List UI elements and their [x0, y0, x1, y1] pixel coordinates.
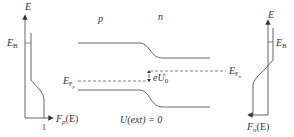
band-diagram: E EB 1 Fp(E) p n EFp EFn eU0 U(ext) = 0 … — [0, 0, 294, 137]
conduction-band — [78, 43, 210, 58]
barrier-arrow-down — [147, 79, 151, 82]
left-x-axis-label: Fp(E) — [55, 113, 78, 126]
left-x-tick-1: 1 — [42, 123, 46, 132]
right-distribution-plot: E EB Fn(E) — [246, 9, 287, 134]
left-distribution-plot: E EB 1 Fp(E) — [6, 1, 78, 132]
valence-band — [78, 90, 210, 107]
n-region-label: n — [158, 11, 163, 22]
left-eb-label: EB — [6, 37, 18, 50]
right-y-axis-label: E — [267, 9, 274, 20]
external-voltage-label: U(ext) = 0 — [120, 114, 162, 126]
right-distribution-curve — [253, 28, 273, 115]
right-eb-label: EB — [275, 37, 287, 50]
right-x-axis-label: Fn(E) — [246, 121, 269, 134]
fermi-n-label: EFn — [228, 65, 241, 79]
barrier-label: eU0 — [153, 72, 169, 85]
barrier-arrow-up — [147, 70, 151, 73]
p-region-label: p — [97, 13, 103, 24]
left-y-axis-label: E — [24, 1, 31, 12]
junction-bands: p n EFp EFn eU0 U(ext) = 0 — [62, 11, 241, 126]
left-distribution-curve — [31, 33, 44, 118]
fermi-p-label: EFp — [62, 75, 75, 89]
